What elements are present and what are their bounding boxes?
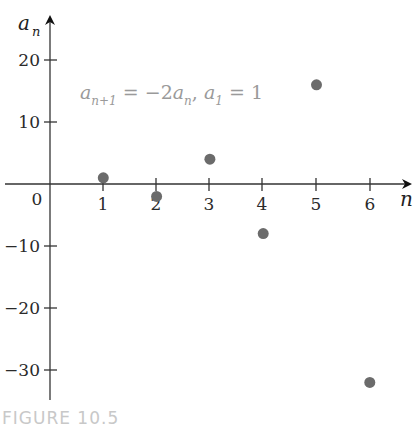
svg-text:−20: −20: [4, 298, 40, 318]
data-point: [151, 191, 162, 202]
recurrence-formula: an+1 = −2an, a1 = 1: [80, 81, 263, 108]
svg-text:5: 5: [311, 194, 322, 214]
svg-text:−30: −30: [4, 360, 40, 380]
svg-text:4: 4: [257, 194, 268, 214]
y-tick-labels: 20 10 −10 −20 −30: [4, 50, 40, 380]
svg-text:a: a: [18, 11, 30, 35]
data-point: [258, 228, 269, 239]
svg-text:3: 3: [204, 194, 215, 214]
svg-text:1: 1: [98, 194, 109, 214]
y-axis-label: a n: [18, 11, 40, 39]
data-points: [98, 79, 376, 388]
data-point: [364, 377, 375, 388]
origin-label: 0: [32, 189, 43, 209]
data-point: [98, 172, 109, 183]
svg-text:−10: −10: [4, 236, 40, 256]
data-point: [204, 154, 215, 165]
data-point: [311, 79, 322, 90]
svg-text:10: 10: [18, 112, 40, 132]
svg-text:6: 6: [365, 194, 376, 214]
svg-text:20: 20: [18, 50, 40, 70]
figure-caption: FIGURE 10.5: [2, 408, 119, 428]
x-axis-label: n: [400, 187, 413, 211]
svg-text:n: n: [32, 24, 40, 39]
x-tick-labels: 1 2 3 4 5 6: [98, 194, 376, 214]
